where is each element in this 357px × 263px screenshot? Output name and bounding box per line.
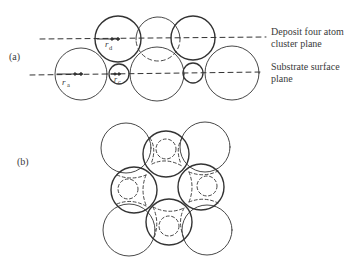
deposit-plane-label-1: Deposit four atom bbox=[271, 26, 344, 37]
atom-packing-diagram: (a) (b) Deposit four atom cluster plane … bbox=[0, 0, 357, 263]
radius-label-rc: r c bbox=[114, 75, 121, 85]
svg-text:c: c bbox=[118, 79, 121, 85]
panel-a bbox=[30, 16, 266, 101]
deposit-atom-rear-hidden bbox=[136, 38, 180, 61]
substrate-plane-label-1: Substrate surface bbox=[271, 61, 340, 72]
substrate-plane-label-2: plane bbox=[271, 73, 293, 84]
radius-label-rd: r d bbox=[105, 39, 113, 51]
panel-b-label: (b) bbox=[17, 156, 29, 168]
svg-text:a: a bbox=[67, 81, 70, 88]
deposit-cluster-left bbox=[111, 167, 157, 213]
deposit-cluster-plane-line bbox=[40, 37, 266, 39]
deposit-cluster-bottom bbox=[146, 199, 192, 245]
panel-b bbox=[101, 122, 232, 256]
deposit-plane-label-2: cluster plane bbox=[271, 38, 322, 49]
svg-text:d: d bbox=[109, 44, 113, 51]
svg-text:r: r bbox=[62, 77, 66, 87]
radius-label-ra: r a bbox=[62, 77, 70, 88]
panel-a-label: (a) bbox=[9, 51, 20, 63]
deposit-cluster-right bbox=[178, 164, 224, 210]
